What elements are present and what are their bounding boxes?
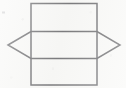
rectangle-shape [31, 4, 97, 86]
scan-speck-icon [2, 12, 5, 14]
geometric-figure-drawing [0, 0, 126, 88]
hexagon-shape [8, 32, 120, 59]
figure-canvas [0, 0, 126, 88]
